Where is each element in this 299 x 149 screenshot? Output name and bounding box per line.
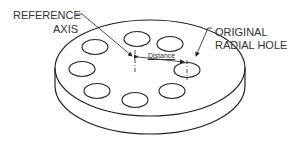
disk-drawing xyxy=(0,0,299,149)
hole xyxy=(159,84,185,99)
reference-axis-label-2: AXIS xyxy=(53,23,78,35)
radial-holes xyxy=(69,32,200,108)
original-hole-label-1: ORIGINAL xyxy=(215,26,268,38)
hole xyxy=(124,32,150,47)
disk-bottom-edge xyxy=(55,68,245,134)
hole xyxy=(82,40,108,55)
hole xyxy=(69,62,95,77)
hole xyxy=(84,84,110,99)
diagram-canvas: REFERENCE AXIS ORIGINAL RADIAL HOLE Dist… xyxy=(0,0,299,149)
hole xyxy=(122,93,148,108)
distance-label: Distance xyxy=(148,50,175,62)
original-hole-label-2: RADIAL HOLE xyxy=(215,39,287,51)
original-hole-leader xyxy=(196,28,212,56)
reference-axis-label-1: REFERENCE xyxy=(13,9,81,21)
reference-leader xyxy=(76,14,132,56)
